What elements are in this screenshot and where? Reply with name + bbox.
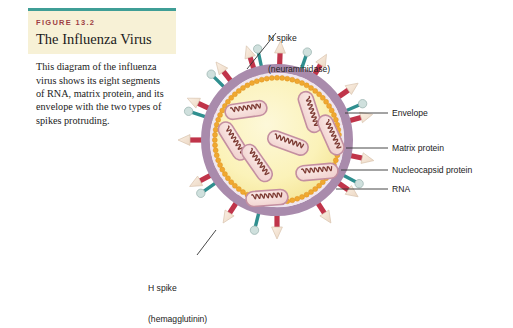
n-spike-knob: [207, 70, 215, 78]
matrix-protein-bead: [331, 113, 336, 118]
n-spike-shaft: [213, 76, 230, 93]
label-h-spike-line1: H spike: [148, 283, 207, 293]
h-spike: [272, 206, 283, 239]
matrix-protein-bead: [327, 103, 332, 108]
matrix-protein-bead: [280, 199, 285, 204]
h-spike-arrowhead: [272, 227, 283, 239]
rna-segment: [316, 113, 347, 157]
matrix-protein-bead: [225, 99, 230, 104]
h-spike: [187, 98, 217, 112]
h-spike-shaft: [341, 117, 362, 123]
nucleocapsid-protein-capsule: [246, 189, 289, 207]
matrix-protein-bead: [329, 167, 334, 172]
rna-segment: [216, 119, 251, 163]
n-spike: [207, 70, 230, 93]
h-spike-shaft: [331, 178, 349, 191]
h-spike: [223, 195, 241, 223]
label-n-spike-line2: (neuraminidase): [268, 64, 330, 74]
h-spike-arrowhead: [361, 153, 374, 164]
h-spike-arrowhead: [190, 176, 203, 186]
matrix-protein-bead: [259, 198, 264, 203]
n-spike-shaft: [338, 105, 360, 114]
matrix-protein-bead: [313, 187, 318, 192]
h-spike: [331, 83, 358, 102]
matrix-protein-bead: [218, 113, 223, 118]
h-spike-arrowhead: [187, 98, 200, 108]
label-envelope: Envelope: [392, 108, 428, 118]
h-spike-shaft: [342, 154, 364, 159]
matrix-protein-bead: [213, 127, 218, 132]
h-spike: [313, 195, 331, 223]
nucleocapsid-protein-capsule: [224, 100, 268, 121]
n-spike-knob: [197, 189, 205, 197]
h-spike: [178, 135, 211, 146]
matrix-protein-bead: [269, 199, 274, 204]
h-spike-arrowhead: [223, 210, 234, 223]
matrix-protein-bead: [214, 122, 219, 127]
h-spike-arrowhead: [360, 112, 373, 122]
matrix-protein-bead: [337, 138, 342, 143]
matrix-protein-bead: [295, 196, 300, 201]
h-spike-shaft: [197, 103, 217, 112]
matrix-protein-bead: [240, 85, 245, 90]
matrix-protein-bead: [229, 180, 234, 185]
matrix-protein-bead: [229, 95, 234, 100]
matrix-protein-bead: [232, 183, 237, 188]
n-spike: [184, 107, 214, 119]
n-spike-knob: [358, 100, 366, 108]
matrix-protein-bead: [245, 83, 250, 88]
matrix-protein-bead: [232, 92, 237, 97]
matrix-protein-bead: [327, 172, 332, 177]
nucleocapsid-protein-capsule: [239, 141, 275, 184]
matrix-protein-bead: [213, 143, 218, 148]
n-spike-shaft: [203, 178, 223, 192]
matrix-protein-bead: [214, 153, 219, 158]
label-h-spike-line2: (hemagglutinin): [148, 314, 207, 324]
matrix-protein-bead: [216, 158, 221, 163]
matrix-protein-bead: [250, 194, 255, 199]
matrix-protein-bead: [213, 148, 218, 153]
matrix-protein-bead: [336, 143, 341, 148]
n-spike-knob: [355, 180, 363, 188]
figure-title: The Influenza Virus: [36, 32, 168, 47]
matrix-protein-bead: [304, 192, 309, 197]
n-spike: [254, 45, 264, 76]
virus-interior: [214, 77, 341, 204]
n-spike-shaft: [258, 52, 263, 75]
matrix-protein-bead: [317, 183, 322, 188]
matrix-protein-bead: [309, 190, 314, 195]
matrix-protein-bead: [333, 158, 338, 163]
matrix-protein-bead: [329, 108, 334, 113]
matrix-protein-bead: [333, 117, 338, 122]
matrix-protein-bead: [336, 127, 341, 132]
rna-segment: [266, 129, 311, 157]
matrix-protein-bead: [285, 199, 290, 204]
matrix-protein-bead: [254, 79, 259, 84]
matrix-protein-bead: [212, 138, 217, 143]
matrix-protein-bead: [324, 99, 329, 104]
nucleocapsid-protein-capsule: [296, 90, 323, 135]
h-spike-shaft: [250, 56, 257, 77]
matrix-protein-bead: [336, 148, 341, 153]
n-spike-knob: [250, 226, 258, 234]
n-spike-shaft: [191, 112, 214, 119]
matrix-protein-bead: [213, 132, 218, 137]
matrix-protein-bead: [220, 167, 225, 172]
matrix-protein-bead: [335, 153, 340, 158]
matrix-protein-bead: [222, 172, 227, 177]
matrix-protein-bead: [331, 162, 336, 167]
matrix-protein-bead: [245, 192, 250, 197]
n-spike-knob: [254, 45, 262, 53]
h-spike-shaft: [199, 171, 218, 181]
label-matrix-protein: Matrix protein: [392, 143, 444, 153]
rna-segment: [296, 90, 323, 135]
h-spike: [190, 171, 219, 187]
matrix-protein-bead: [259, 77, 264, 82]
n-spike-knob: [184, 107, 192, 115]
rna-segment: [224, 100, 268, 121]
figure-caption-text: This diagram of the influenza virus show…: [28, 54, 176, 127]
label-n-spike: N spike (neuraminidase): [268, 12, 330, 95]
n-spike-shaft: [335, 171, 356, 182]
n-spike-shaft: [255, 204, 261, 227]
figure-number: FIGURE 13.2: [36, 18, 168, 27]
